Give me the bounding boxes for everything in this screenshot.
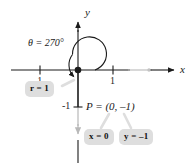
point-label: P = (0, –1) (86, 101, 135, 112)
figure-canvas: y x -1 1 -1 θ = 270° P = (0, –1) r = 1 x… (0, 0, 195, 166)
y-axis-label: y (85, 7, 90, 18)
y-axis (74, 22, 83, 163)
origin-point (75, 67, 82, 74)
callout-x-coordinate: x = 0 (84, 129, 114, 145)
x-axis (11, 66, 174, 75)
x-axis-midmark (147, 68, 150, 71)
callout-radius: r = 1 (25, 81, 54, 97)
angle-label: θ = 270° (28, 38, 64, 48)
callout-y-coordinate: y = –1 (119, 129, 153, 145)
angle-arc (69, 37, 107, 77)
x-axis-label: x (180, 64, 185, 75)
y-tick-label-negative-one: -1 (62, 101, 70, 111)
x-tick-label-one: 1 (110, 76, 115, 86)
